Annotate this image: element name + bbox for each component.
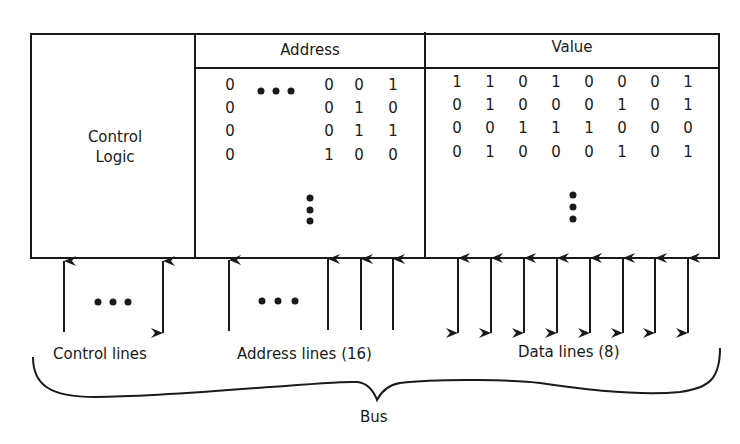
address-lines-label: Address lines (16)	[237, 345, 372, 363]
ellipsis-horizontal-icon	[258, 88, 295, 95]
data-lines-label: Data lines (8)	[518, 343, 619, 361]
ellipsis-horizontal-icon	[259, 298, 299, 305]
ellipsis-horizontal-icon	[95, 299, 132, 306]
bus-diagram-graphics	[0, 0, 740, 444]
address-lines-arrows	[229, 259, 393, 331]
control-lines-arrows	[64, 261, 163, 333]
data-lines-arrows	[458, 258, 688, 333]
bus-label: Bus	[360, 408, 388, 426]
ellipsis-vertical-icon	[307, 195, 314, 225]
ellipsis-vertical-icon	[570, 192, 577, 223]
control-lines-label: Control lines	[53, 345, 147, 363]
